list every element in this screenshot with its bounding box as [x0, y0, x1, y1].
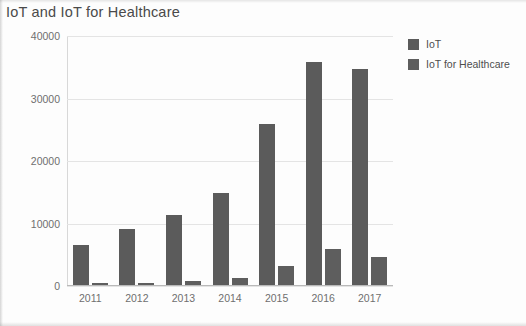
y-axis-tick-label: 30000 [31, 93, 60, 105]
x-axis-tick-label: 2015 [265, 292, 288, 304]
bar [278, 266, 294, 285]
gridline [67, 286, 393, 287]
bar [138, 283, 154, 286]
legend-item: IoT [408, 38, 510, 50]
y-axis-tick-label: 10000 [31, 218, 60, 230]
x-axis-tick-label: 2014 [218, 292, 241, 304]
x-axis-tick-label: 2011 [79, 292, 102, 304]
bar [371, 257, 387, 285]
bar [259, 124, 275, 285]
y-axis-tick-label: 0 [54, 280, 60, 292]
gridline [67, 224, 393, 225]
page-edge-left [0, 0, 3, 326]
gridline [67, 161, 393, 162]
chart-legend: IoTIoT for Healthcare [408, 38, 510, 78]
x-axis-tick-label: 2017 [358, 292, 381, 304]
bar [185, 281, 201, 285]
bar [325, 249, 341, 285]
bar [352, 69, 368, 285]
page-edge-bottom [0, 322, 526, 326]
y-axis-tick-label: 20000 [31, 155, 60, 167]
bar [213, 193, 229, 286]
plot-area: 010000200003000040000 201120122013201420… [67, 36, 393, 286]
gridline [67, 36, 393, 37]
bar [232, 278, 248, 286]
x-axis-tick-label: 2016 [311, 292, 334, 304]
chart-title: IoT and IoT for Healthcare [6, 4, 180, 20]
legend-label: IoT for Healthcare [426, 58, 510, 70]
bar [306, 62, 322, 285]
gridline [67, 99, 393, 100]
legend-swatch [408, 39, 419, 50]
x-axis-tick-label: 2012 [125, 292, 148, 304]
bar [92, 283, 108, 285]
legend-label: IoT [426, 38, 441, 50]
bar [166, 215, 182, 285]
bar-chart: IoT and IoT for Healthcare 0100002000030… [0, 0, 526, 326]
page-edge-top [0, 0, 526, 3]
bar [119, 229, 135, 285]
bar [73, 245, 89, 285]
y-axis-tick-label: 40000 [31, 30, 60, 42]
x-axis-tick-label: 2013 [172, 292, 195, 304]
legend-swatch [408, 59, 419, 70]
legend-item: IoT for Healthcare [408, 58, 510, 70]
